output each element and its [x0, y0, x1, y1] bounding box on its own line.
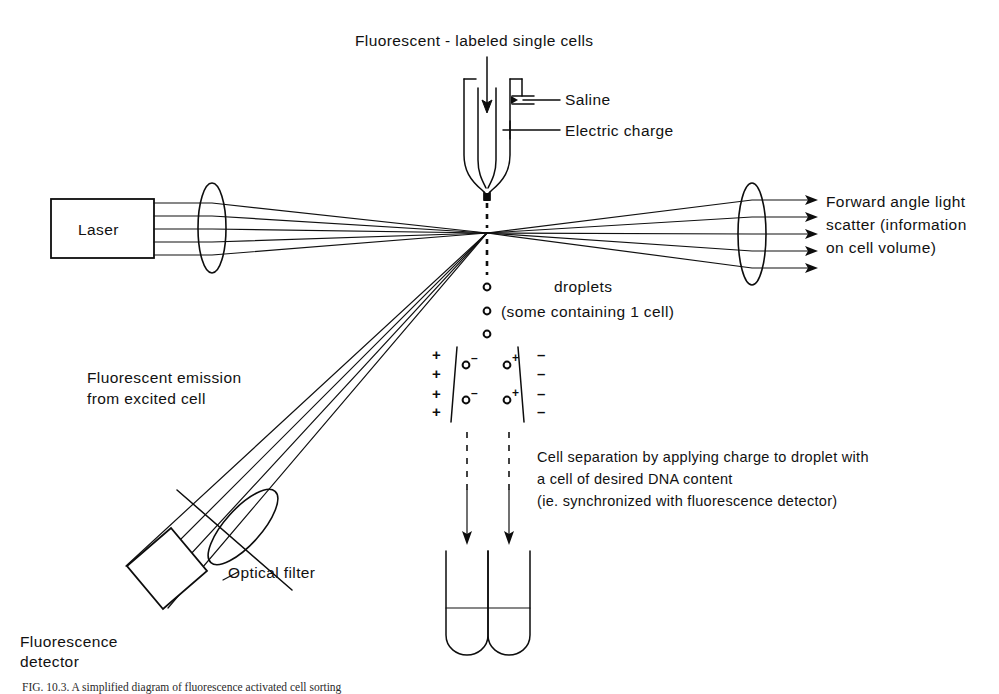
svg-text:–: – [537, 365, 545, 382]
figure-caption: FIG. 10.3. A simplified diagram of fluor… [22, 681, 342, 694]
svg-text:–: – [471, 351, 478, 365]
droplets-label-line1: droplets [554, 278, 612, 295]
svg-text:–: – [471, 386, 478, 400]
saline-leader [511, 79, 560, 104]
forward-scatter-beam-bundle [487, 200, 810, 268]
collection-tube-left [446, 551, 488, 655]
deflected-stream-left [462, 432, 472, 545]
forward-scatter-line2: scatter (information [826, 216, 967, 233]
sample-inlet-arrow [482, 57, 492, 113]
droplet-column [484, 284, 491, 338]
droplets-label-line2: (some containing 1 cell) [501, 303, 674, 320]
fluorescent-emission-line2: from excited cell [87, 390, 206, 407]
collection-tube-right [488, 551, 530, 655]
optical-filter-lens [198, 479, 289, 574]
deflection-plate-left [451, 347, 457, 422]
electric-charge-label: Electric charge [565, 122, 674, 139]
fluorescence-detector-line2: detector [20, 653, 79, 670]
saline-label: Saline [565, 91, 611, 108]
svg-text:+: + [432, 403, 441, 420]
separation-note-line2: a cell of desired DNA content [537, 471, 733, 487]
svg-text:+: + [512, 351, 519, 365]
fluorescence-detector-line1: Fluorescence [20, 633, 118, 650]
optical-filter-label: Optical filter [228, 564, 315, 581]
electric-charge-leader [503, 121, 560, 139]
fluorescent-emission-line1: Fluorescent emission [87, 369, 241, 386]
svg-text:+: + [512, 386, 519, 400]
top-title-label: Fluorescent - labeled single cells [355, 32, 593, 49]
figure-caption-container: FIG. 10.3. A simplified diagram of fluor… [0, 680, 999, 694]
svg-text:+: + [432, 365, 441, 382]
deflected-stream-right [504, 432, 514, 545]
svg-text:–: – [537, 385, 545, 402]
separation-note-line3: (ie. synchronized with fluorescence dete… [537, 493, 837, 509]
figure-canvas: Fluorescent - labeled single cells Salin… [0, 0, 999, 694]
svg-text:–: – [537, 346, 545, 363]
flow-cell-nozzle [464, 79, 522, 201]
fluorescence-detector-box [127, 528, 207, 609]
positive-charge-group: + + + + [432, 346, 441, 420]
laser-focusing-lens [198, 183, 226, 273]
negative-droplet-group: – – [463, 351, 478, 403]
svg-text:–: – [537, 403, 545, 420]
negative-charge-group: – – – – [537, 346, 545, 420]
svg-text:+: + [432, 385, 441, 402]
forward-scatter-line1: Forward angle light [826, 193, 966, 210]
forward-scatter-line3: on cell volume) [826, 239, 936, 256]
positive-droplet-group: + + [504, 351, 519, 403]
laser-label: Laser [78, 221, 119, 238]
svg-text:+: + [432, 346, 441, 363]
separation-note-line1: Cell separation by applying charge to dr… [537, 449, 869, 465]
laser-beam-bundle [154, 203, 487, 255]
